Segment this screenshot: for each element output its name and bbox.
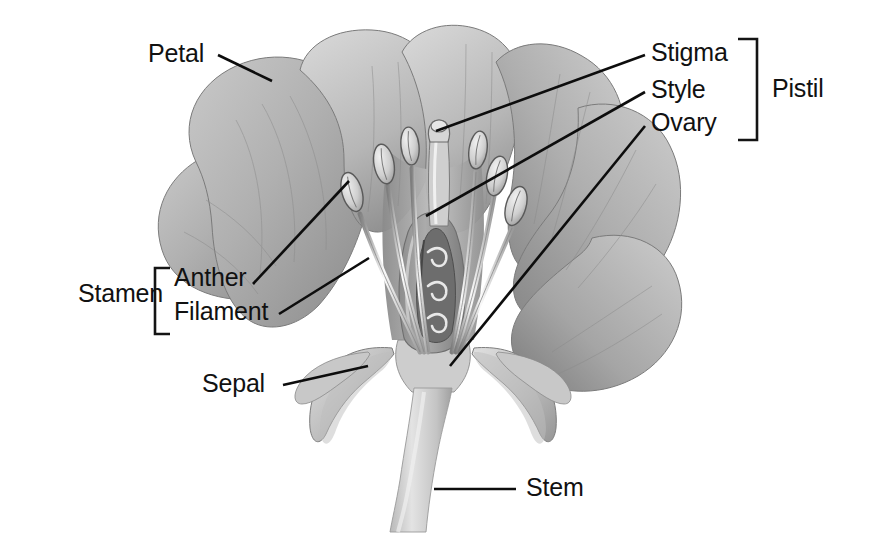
label-filament: Filament	[174, 299, 268, 324]
label-stem: Stem	[526, 475, 584, 500]
pistil-bracket	[738, 39, 757, 140]
flower-anatomy-diagram: Petal Stigma Style Ovary Pistil Stamen A…	[0, 0, 870, 540]
label-anther: Anther	[174, 265, 246, 290]
label-stigma: Stigma	[651, 40, 728, 65]
flower-illustration	[0, 0, 870, 540]
label-petal: Petal	[148, 41, 204, 66]
label-ovary: Ovary	[651, 110, 717, 135]
stem-group	[390, 340, 470, 532]
label-pistil: Pistil	[772, 76, 824, 101]
label-style: Style	[651, 77, 706, 102]
label-stamen: Stamen	[78, 281, 163, 306]
label-sepal: Sepal	[202, 371, 265, 396]
